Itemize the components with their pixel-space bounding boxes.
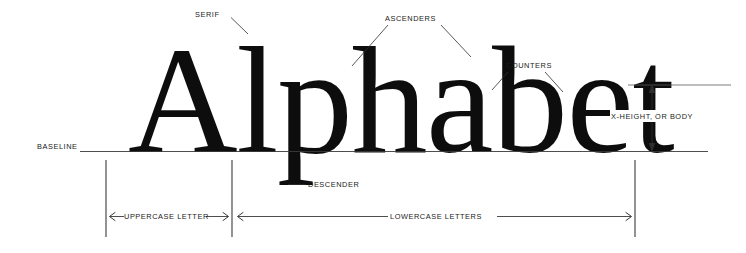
label-ascenders: ASCENDERS	[385, 14, 436, 23]
label-descender: DESCENDER	[308, 180, 359, 189]
label-serif: SERIF	[195, 10, 220, 19]
label-baseline: BASELINE	[37, 142, 78, 151]
diagram-canvas: Alphabet SERIF ASCENDERS COUNTERS BASELI…	[0, 0, 746, 253]
label-lowercase-letters: LOWERCASE LETTERS	[390, 212, 482, 221]
typography-anatomy-diagram: Alphabet SERIF ASCENDERS COUNTERS BASELI…	[0, 0, 746, 253]
label-counters: COUNTERS	[506, 61, 552, 70]
label-x-height: X-HEIGHT, OR BODY	[611, 112, 693, 121]
label-uppercase-letter: UPPERCASE LETTER	[124, 212, 209, 221]
specimen-word-alphabet: Alphabet	[128, 17, 674, 185]
